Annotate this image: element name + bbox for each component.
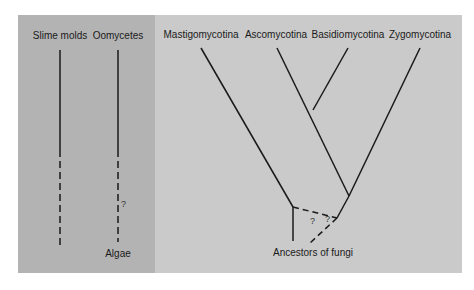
uncertain-mark-oomycetes: ? <box>121 199 126 209</box>
stem-higher-fungi <box>337 196 349 218</box>
label-mastigomycotina: Mastigomycotina <box>163 29 238 40</box>
branch-mastigomycotina <box>201 48 293 207</box>
fungi-tree <box>201 48 420 243</box>
branch-ascomycotina <box>277 48 349 196</box>
label-ancestors-of-fungi: Ancestors of fungi <box>273 247 353 258</box>
branch-zygomycotina <box>349 48 420 196</box>
label-ascomycotina: Ascomycotina <box>245 29 308 40</box>
label-algae: Algae <box>105 248 131 259</box>
label-basidiomycotina: Basidiomycotina <box>312 29 385 40</box>
label-slime-molds: Slime molds <box>33 30 87 41</box>
label-oomycetes: Oomycetes <box>93 30 144 41</box>
label-zygomycotina: Zygomycotina <box>389 29 452 40</box>
branch-basidiomycotina <box>313 48 348 110</box>
uncertain-mark-1: ? <box>310 216 315 226</box>
phylogeny-diagram: Slime molds Oomycetes ? Algae Mastigomyc… <box>0 0 474 290</box>
uncertain-mark-2: ? <box>325 214 330 224</box>
